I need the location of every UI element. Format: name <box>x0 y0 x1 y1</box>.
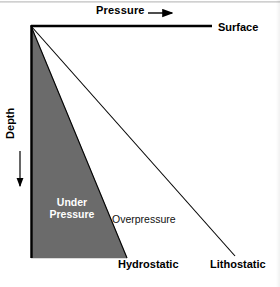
label-hydrostatic: Hydrostatic <box>118 258 179 271</box>
label-surface: Surface <box>218 21 258 34</box>
pressure-depth-diagram <box>0 0 280 287</box>
label-under-pressure: Under Pressure <box>44 196 100 220</box>
label-lithostatic: Lithostatic <box>210 258 266 271</box>
axis-label-depth: Depth <box>4 108 17 139</box>
label-under-pressure-line2: Pressure <box>50 208 95 220</box>
label-under-pressure-line1: Under <box>57 196 87 208</box>
label-overpressure: Overpressure <box>112 213 176 225</box>
axis-label-pressure: Pressure <box>96 4 145 17</box>
figure-canvas: Pressure Surface Depth Under Pressure Ov… <box>0 0 280 287</box>
scan-artifact-right-edge <box>276 0 280 287</box>
